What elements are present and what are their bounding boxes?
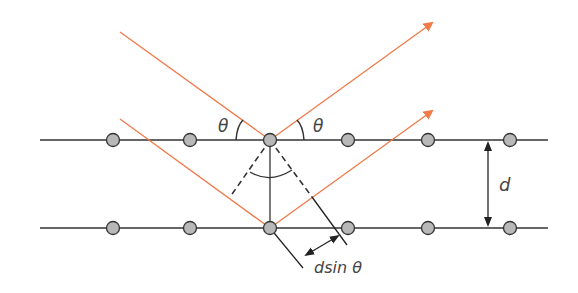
atom [422, 222, 435, 235]
path-difference-label: dsin θ [314, 258, 362, 277]
theta-label-right: θ [313, 116, 324, 136]
atom [107, 222, 120, 235]
atom [264, 222, 277, 235]
atom [422, 134, 435, 147]
atom [107, 134, 120, 147]
dashed-perpendicular-left [230, 140, 270, 197]
atom [342, 134, 355, 147]
path-diff-extension-1 [270, 228, 303, 268]
path-diff-extension-2 [312, 197, 347, 245]
center-angle-arc [250, 170, 292, 178]
theta-arc-right [297, 120, 304, 140]
atom [504, 222, 517, 235]
diagram-canvas: θ θ d dsin θ [0, 0, 578, 293]
theta-arc-left [236, 120, 243, 140]
theta-label-left: θ [218, 116, 229, 136]
atom [342, 222, 355, 235]
upper-incident-ray [120, 32, 270, 140]
bragg-diagram: θ θ d dsin θ [0, 0, 578, 293]
atom [184, 134, 197, 147]
path-diff-arrow [306, 236, 338, 255]
atom [264, 134, 277, 147]
lower-reflected-ray [270, 111, 432, 228]
dashed-perpendicular-right [270, 140, 312, 197]
atom [504, 134, 517, 147]
atom [184, 222, 197, 235]
upper-reflected-ray [270, 23, 432, 140]
spacing-label: d [499, 174, 511, 195]
